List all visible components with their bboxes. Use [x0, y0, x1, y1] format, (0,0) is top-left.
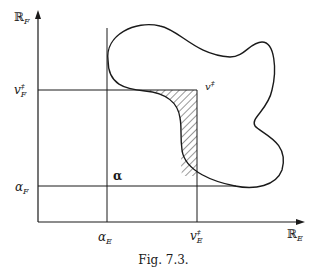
alpha-e-label: αE	[98, 231, 112, 246]
x-axis-label: ℝE	[287, 228, 303, 243]
x-axis-arrow-icon	[296, 219, 305, 225]
y-axis-arrow-icon	[35, 10, 41, 19]
v-e-label: v‡E	[190, 229, 203, 245]
v-point-label: v‡	[205, 80, 215, 92]
v-f-label: v‡F	[14, 83, 26, 99]
alpha-point-label: α	[113, 170, 122, 182]
diagram-canvas	[0, 0, 327, 276]
alpha-f-label: αF	[15, 181, 29, 196]
y-axis-label: ℝF	[14, 11, 30, 26]
figure-caption: Fig. 7.3.	[0, 253, 327, 267]
